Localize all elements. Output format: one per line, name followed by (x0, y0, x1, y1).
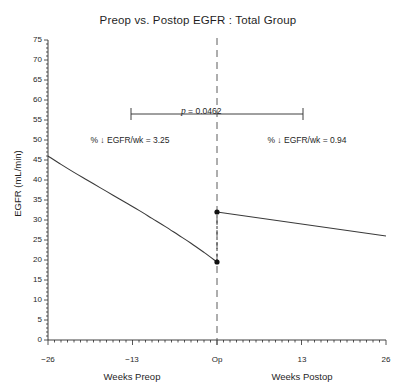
preop-egfr-curve (48, 156, 217, 262)
postop-egfr-line (217, 212, 386, 236)
plot-area (0, 0, 396, 389)
chart-figure: Preop vs. Postop EGFR : Total Group EGFR… (0, 0, 396, 389)
p-value-bracket (131, 108, 303, 120)
y-axis-ticks (44, 40, 48, 340)
